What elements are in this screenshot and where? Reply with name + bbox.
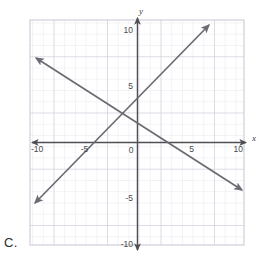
ytick-label-neg10: -10 [121,239,134,249]
y-axis-label: y [138,6,143,16]
xtick-label-10: 10 [234,144,244,154]
x-axis-label: x [251,133,256,143]
graph-figure: -10 -5 0 5 10 10 5 -5 -10 x y C. [0,0,268,261]
xtick-label-5: 5 [189,144,194,154]
answer-choice-label: C. [4,236,18,249]
xtick-label-neg10: -10 [31,144,44,154]
coordinate-plane: -10 -5 0 5 10 10 5 -5 -10 x y [0,0,268,261]
ytick-label-5: 5 [128,81,133,91]
xtick-label-origin: 0 [129,145,134,155]
ytick-label-neg5: -5 [125,193,133,203]
ytick-label-10: 10 [124,25,134,35]
xtick-label-neg5: -5 [81,144,89,154]
